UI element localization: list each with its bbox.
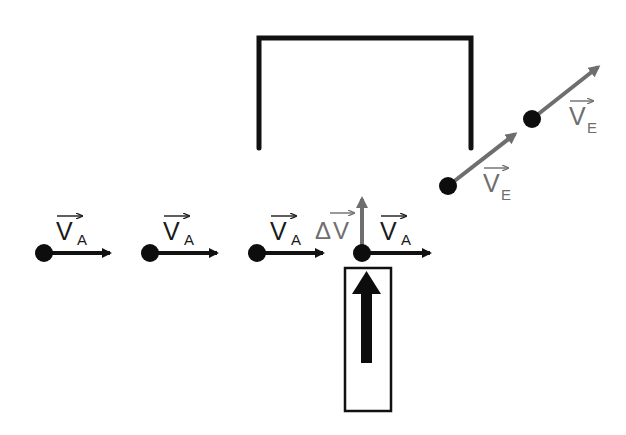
final-position-2: V E (523, 67, 598, 136)
object-dot (353, 244, 371, 262)
label-subscript-e: E (587, 119, 597, 136)
label-subscript-a: A (291, 231, 301, 248)
label-subscript-a: A (401, 231, 411, 248)
object-dot (35, 244, 53, 262)
position-1: V A (35, 216, 110, 262)
label-v: V (56, 217, 73, 245)
label-v: V (380, 217, 397, 245)
object-dot (248, 244, 266, 262)
position-2: V A (141, 216, 217, 262)
final-position-1: V E (439, 134, 515, 203)
velocity-change-diagram: V A V A V A V A Δ V (0, 0, 626, 435)
label-delta: Δ (315, 217, 331, 244)
object-dot (523, 110, 541, 128)
label-subscript-e: E (501, 186, 511, 203)
label-subscript-a: A (184, 231, 194, 248)
label-v: V (163, 217, 180, 245)
position-3: V A (248, 216, 323, 262)
position-4-kick: V A Δ V (315, 199, 430, 262)
label-v: V (569, 102, 586, 130)
force-arrow-up-icon (352, 271, 381, 294)
label-v: V (270, 217, 287, 245)
velocity-arrow-ve (532, 67, 598, 119)
object-dot (439, 177, 457, 195)
label-subscript-a: A (77, 231, 87, 248)
label-delta-v: V (333, 217, 349, 244)
label-v: V (483, 169, 500, 197)
object-dot (141, 244, 159, 262)
force-arrow-shaft (361, 290, 372, 363)
velocity-arrow-ve (448, 134, 515, 186)
barrier-bracket (259, 38, 471, 148)
impulse-box (345, 268, 391, 411)
